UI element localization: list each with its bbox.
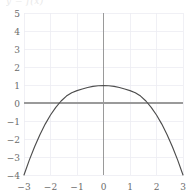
xtick-neg2: −2 xyxy=(44,182,57,192)
parabola-figure: y = f(x) 5 xyxy=(0,0,189,196)
xtick-3: 3 xyxy=(180,182,186,192)
ytick-neg3: −3 xyxy=(7,153,21,163)
ytick-5: 5 xyxy=(14,9,20,19)
ytick-4: 4 xyxy=(14,27,20,37)
ytick-neg4: −4 xyxy=(7,171,21,181)
ytick-neg1: −1 xyxy=(7,117,20,127)
ytick-2: 2 xyxy=(14,63,20,73)
ytick-0: 0 xyxy=(14,99,20,109)
xtick-0: 0 xyxy=(101,182,107,192)
xtick-1: 1 xyxy=(127,182,133,192)
ytick-3: 3 xyxy=(14,45,20,55)
xtick-2: 2 xyxy=(154,182,160,192)
y-tick-labels: 5 4 3 2 1 0 −1 −2 −3 −4 xyxy=(7,9,21,181)
xtick-neg3: −3 xyxy=(17,182,31,192)
x-tick-labels: −3 −2 −1 0 1 2 3 xyxy=(17,182,186,192)
ytick-1: 1 xyxy=(14,81,20,91)
xtick-neg1: −1 xyxy=(70,182,83,192)
plot-canvas: 5 4 3 2 1 0 −1 −2 −3 −4 −3 −2 −1 0 1 2 3 xyxy=(0,0,189,196)
ytick-neg2: −2 xyxy=(7,135,20,145)
